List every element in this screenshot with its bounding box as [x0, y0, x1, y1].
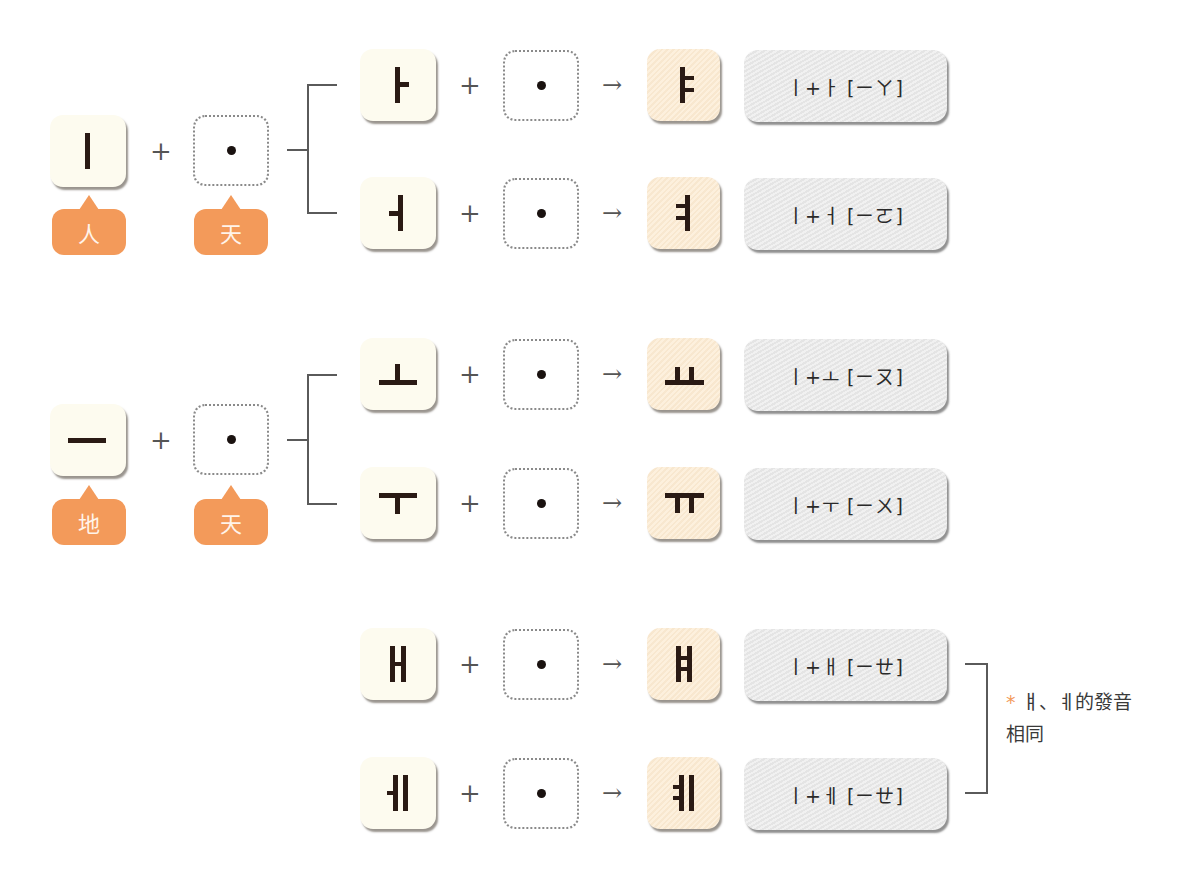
dot-box: [193, 404, 269, 475]
clipped-footnote: [820, 882, 1160, 889]
vowel-o-glyph-icon: [360, 338, 436, 410]
vowel-a-glyph-icon: [360, 49, 436, 121]
pronunciation-note: * ㅒ、ㅖ的發音 相同: [1006, 686, 1132, 750]
formula-pill: ㅣ+ㅓ [ㄧㄛ]: [744, 178, 947, 250]
result-tile-yae: [647, 628, 720, 700]
asterisk-icon: *: [1006, 691, 1016, 713]
vowel-tile-o: [360, 338, 436, 410]
arrow-sign: →: [597, 72, 627, 98]
formula-pill: ㅣ+ㅔ [ㄧㄝ]: [744, 758, 947, 830]
plus-sign: +: [148, 427, 174, 453]
vowel-ye-glyph-icon: [647, 757, 723, 829]
bracket-stub: [287, 149, 308, 151]
note-bracket-top: [965, 663, 987, 665]
heaven-dot-icon: [537, 660, 546, 669]
result-tile-ya: [647, 49, 720, 121]
heaven-dot-icon: [537, 499, 546, 508]
vowel-tile-eo: [360, 177, 436, 249]
vowel-tile-ae: [360, 628, 436, 700]
arrow-sign: →: [597, 780, 627, 806]
arrow-sign: →: [597, 490, 627, 516]
formula-pill: ㅣ+ㅐ [ㄧㄝ]: [744, 629, 947, 701]
dot-box: [503, 178, 579, 249]
base-label-person: 人: [52, 209, 126, 255]
dot-label-heaven: 天: [194, 499, 268, 545]
plus-sign: +: [457, 651, 483, 677]
heaven-dot-icon: [537, 209, 546, 218]
heaven-dot-icon: [227, 146, 236, 155]
vowel-yo-glyph-icon: [647, 338, 723, 410]
formula-pill: ㅣ+ㅏ [ㄧㄚ]: [744, 50, 947, 122]
vowel-tile-u: [360, 467, 436, 539]
vowel-yu-glyph-icon: [647, 467, 723, 539]
formula-pill: ㅣ+ㅗ [ㄧㄡ]: [744, 339, 947, 411]
arrow-sign: →: [597, 651, 627, 677]
result-tile-yeo: [647, 177, 720, 249]
arrow-sign: →: [597, 200, 627, 226]
bracket-stub: [287, 439, 308, 441]
dot-box: [503, 468, 579, 539]
heaven-dot-icon: [537, 81, 546, 90]
result-tile-yo: [647, 338, 720, 410]
vowel-i-glyph-icon: [50, 115, 126, 187]
bracket-branch-bottom: [307, 212, 337, 214]
dot-box: [503, 758, 579, 829]
bracket-branch-top: [307, 374, 337, 376]
heaven-dot-icon: [537, 789, 546, 798]
dot-box: [193, 115, 269, 186]
vowel-ae-glyph-icon: [360, 628, 436, 700]
note-bracket-bottom: [965, 792, 987, 794]
heaven-dot-icon: [227, 435, 236, 444]
vowel-yeo-glyph-icon: [647, 177, 723, 249]
dot-label-heaven: 天: [194, 209, 268, 255]
note-line-1: ㅒ、ㅖ的發音: [1022, 691, 1132, 713]
bracket-vertical: [307, 374, 309, 505]
plus-sign: +: [148, 138, 174, 164]
plus-sign: +: [457, 200, 483, 226]
dot-box: [503, 339, 579, 410]
dot-box: [503, 629, 579, 700]
vowel-tile-a: [360, 49, 436, 121]
base-tile-i: [50, 115, 126, 187]
vowel-yae-glyph-icon: [647, 628, 723, 700]
result-tile-ye: [647, 757, 720, 829]
vowel-u-glyph-icon: [360, 467, 436, 539]
base-tile-eu: [50, 404, 126, 476]
plus-sign: +: [457, 72, 483, 98]
heaven-dot-icon: [537, 370, 546, 379]
result-tile-yu: [647, 467, 720, 539]
vowel-eo-glyph-icon: [360, 177, 436, 249]
base-label-earth: 地: [52, 499, 126, 545]
arrow-sign: →: [597, 361, 627, 387]
plus-sign: +: [457, 361, 483, 387]
label-text: 人: [78, 216, 100, 248]
note-line-2: 相同: [1006, 723, 1044, 745]
bracket-branch-top: [307, 84, 337, 86]
plus-sign: +: [457, 780, 483, 806]
vowel-eu-glyph-icon: [50, 404, 126, 476]
vowel-ya-glyph-icon: [647, 49, 723, 121]
label-text: 天: [220, 506, 242, 538]
note-bracket-vertical: [986, 663, 988, 794]
plus-sign: +: [457, 490, 483, 516]
label-text: 天: [220, 216, 242, 248]
bracket-vertical: [307, 84, 309, 214]
dot-box: [503, 50, 579, 121]
label-text: 地: [78, 506, 100, 538]
vowel-e-glyph-icon: [360, 757, 436, 829]
vowel-tile-e: [360, 757, 436, 829]
bracket-branch-bottom: [307, 503, 337, 505]
formula-pill: ㅣ+ㅜ [ㄧㄨ]: [744, 468, 947, 540]
